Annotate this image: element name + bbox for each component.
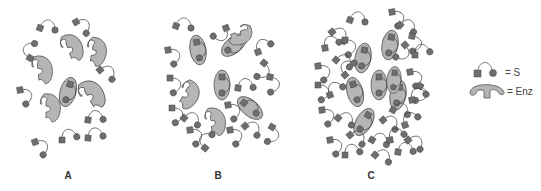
panel-label-b: B: [208, 170, 228, 181]
legend: [470, 63, 504, 99]
legend-substrate-icon: [474, 63, 497, 78]
panel-b: [162, 18, 282, 154]
panel-label-a: A: [58, 170, 78, 181]
panel-a: [14, 13, 120, 159]
panel-label-c: C: [361, 170, 381, 181]
legend-enzyme-label: = Enz: [507, 86, 533, 97]
legend-enzyme-icon: [470, 85, 504, 98]
legend-substrate-label: = S: [505, 67, 520, 78]
enzyme-saturation-diagram: [0, 0, 541, 191]
panel-c: [312, 5, 434, 167]
